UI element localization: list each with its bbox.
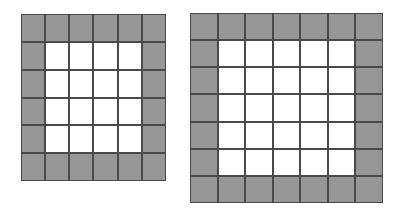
- grid-cell-shaded: [118, 153, 142, 181]
- grid-cell-shaded: [142, 70, 166, 98]
- grid-cell-unshaded: [273, 149, 301, 176]
- grid-cell-unshaded: [93, 42, 117, 70]
- grid-cell-shaded: [118, 14, 142, 42]
- grid-cell-unshaded: [245, 67, 273, 94]
- grid-cell-unshaded: [328, 94, 356, 121]
- grid-cell-shaded: [93, 14, 117, 42]
- grid-cell-shaded: [355, 13, 383, 40]
- grid-cell-unshaded: [45, 42, 69, 70]
- grid-cell-unshaded: [69, 125, 93, 153]
- grid-right: [190, 13, 383, 203]
- grid-cell-unshaded: [218, 94, 246, 121]
- grid-cell-unshaded: [300, 40, 328, 67]
- grid-cell-unshaded: [69, 42, 93, 70]
- grid-cell-shaded: [190, 149, 218, 176]
- grid-cell-shaded: [190, 176, 218, 203]
- grid-cell-shaded: [21, 70, 45, 98]
- grid-cell-shaded: [190, 67, 218, 94]
- grid-cell-shaded: [355, 40, 383, 67]
- grid-cell-unshaded: [218, 122, 246, 149]
- grid-cell-shaded: [273, 13, 301, 40]
- grid-cell-unshaded: [300, 67, 328, 94]
- grid-cell-unshaded: [328, 122, 356, 149]
- grid-cell-unshaded: [118, 70, 142, 98]
- grid-cell-shaded: [142, 14, 166, 42]
- grid-cell-shaded: [300, 176, 328, 203]
- grid-cell-unshaded: [300, 122, 328, 149]
- figure-canvas: [0, 0, 406, 215]
- grid-cell-unshaded: [93, 125, 117, 153]
- grid-cell-shaded: [300, 13, 328, 40]
- grid-cell-unshaded: [273, 94, 301, 121]
- grid-cell-shaded: [190, 40, 218, 67]
- grid-cell-shaded: [21, 125, 45, 153]
- grid-cell-unshaded: [273, 40, 301, 67]
- grid-cell-unshaded: [328, 40, 356, 67]
- grid-cell-unshaded: [218, 149, 246, 176]
- grid-cell-unshaded: [245, 149, 273, 176]
- grid-cell-unshaded: [45, 125, 69, 153]
- grid-cell-unshaded: [218, 40, 246, 67]
- grid-cell-unshaded: [273, 67, 301, 94]
- grid-cell-shaded: [355, 122, 383, 149]
- grid-cell-unshaded: [245, 94, 273, 121]
- grid-cell-shaded: [190, 122, 218, 149]
- grid-cell-unshaded: [93, 98, 117, 126]
- grid-cell-shaded: [273, 176, 301, 203]
- grid-cell-unshaded: [69, 98, 93, 126]
- grid-cell-unshaded: [300, 149, 328, 176]
- grid-cell-shaded: [69, 14, 93, 42]
- grid-cell-shaded: [355, 94, 383, 121]
- grid-cell-shaded: [21, 42, 45, 70]
- grid-cell-unshaded: [45, 98, 69, 126]
- grid-cell-unshaded: [93, 70, 117, 98]
- grid-cell-unshaded: [245, 122, 273, 149]
- grid-cell-shaded: [21, 98, 45, 126]
- grid-cell-unshaded: [300, 94, 328, 121]
- grid-cell-shaded: [142, 153, 166, 181]
- grid-cell-shaded: [355, 149, 383, 176]
- grid-cell-shaded: [218, 176, 246, 203]
- grid-cell-shaded: [355, 67, 383, 94]
- grid-cell-shaded: [328, 176, 356, 203]
- grid-cell-unshaded: [218, 67, 246, 94]
- grid-cell-shaded: [21, 14, 45, 42]
- grid-cell-shaded: [93, 153, 117, 181]
- grid-cell-shaded: [69, 153, 93, 181]
- grid-cell-shaded: [21, 153, 45, 181]
- grid-cell-unshaded: [45, 70, 69, 98]
- grid-cell-unshaded: [69, 70, 93, 98]
- grid-cell-shaded: [355, 176, 383, 203]
- grid-cell-shaded: [142, 98, 166, 126]
- grid-cell-unshaded: [118, 98, 142, 126]
- grid-cell-unshaded: [118, 42, 142, 70]
- grid-cell-unshaded: [328, 67, 356, 94]
- grid-cell-shaded: [142, 42, 166, 70]
- grid-cell-shaded: [328, 13, 356, 40]
- grid-cell-shaded: [190, 13, 218, 40]
- grid-cell-shaded: [45, 14, 69, 42]
- grid-cell-shaded: [218, 13, 246, 40]
- grid-cell-shaded: [45, 153, 69, 181]
- grid-cell-unshaded: [273, 122, 301, 149]
- grid-cell-shaded: [190, 94, 218, 121]
- grid-cell-shaded: [245, 176, 273, 203]
- grid-cell-unshaded: [118, 125, 142, 153]
- grid-left: [21, 14, 166, 181]
- grid-cell-unshaded: [328, 149, 356, 176]
- grid-cell-shaded: [245, 13, 273, 40]
- grid-cell-unshaded: [245, 40, 273, 67]
- grid-cell-shaded: [142, 125, 166, 153]
